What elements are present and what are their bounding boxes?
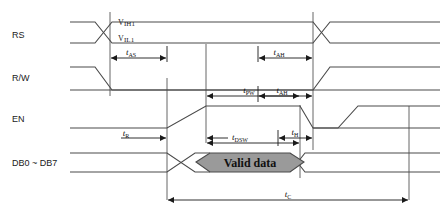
signal-db-waveform: Valid data (70, 153, 440, 172)
timing-label-tc: tC (285, 189, 292, 200)
timing-diagram-canvas: Valid data RS R/W EN (0, 0, 446, 221)
svg-text:VIH1: VIH1 (118, 18, 135, 28)
tr-sub: R (125, 133, 129, 139)
timing-diagram: Valid data RS R/W EN (0, 0, 446, 221)
voltage-label-vil1: VIL1 (118, 34, 135, 44)
timing-label-tdsw: tDSW (232, 132, 248, 143)
row-label-db: DB0 ~ DB7 (12, 158, 57, 168)
svg-text:VIL1: VIL1 (118, 34, 135, 44)
signal-rw-waveform (70, 67, 440, 90)
row-label-rs: RS (12, 30, 25, 40)
tdsw-sub: DSW (235, 137, 249, 143)
voltage-label-vih1: VIH1 (118, 18, 135, 28)
row-label-en: EN (12, 114, 25, 124)
timing-label-th: tH (292, 127, 300, 138)
vih1-sub: IH1 (124, 20, 136, 28)
timing-arrows (111, 46, 408, 200)
timing-label-tas: tAS (126, 47, 136, 58)
vil1-sub: IL1 (124, 36, 135, 44)
tas-sub: AS (128, 52, 136, 58)
tc-sub: C (287, 194, 291, 200)
tpw-sub: PW (246, 90, 255, 96)
tah2-sub: AH (279, 90, 288, 96)
valid-data-label: Valid data (224, 156, 277, 170)
row-label-rw: R/W (12, 73, 30, 83)
timing-label-tah-1: tAH (273, 47, 285, 58)
signal-en-waveform (70, 106, 440, 128)
tah1-sub: AH (276, 52, 285, 58)
th-sub: H (294, 132, 299, 138)
timing-label-tpw: tPW (243, 85, 255, 96)
timing-label-tah-2: tAH (276, 85, 288, 96)
timing-label-tr: tR (123, 128, 130, 139)
